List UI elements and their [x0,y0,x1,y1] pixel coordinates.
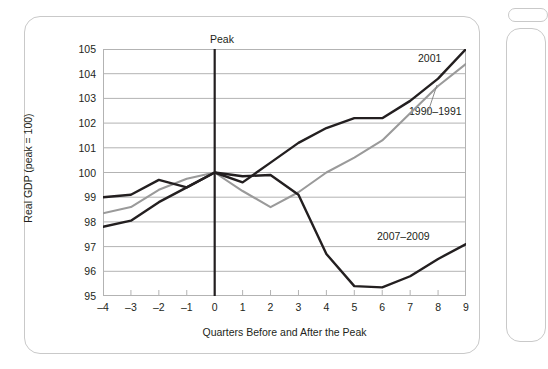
x-tick-minus1: –1 [172,302,202,313]
chart-svg [103,49,466,296]
y-tick-96: 96 [58,266,96,277]
peak-annotation-label: Peak [182,33,262,45]
x-tick-3: 3 [284,302,314,313]
y-tick-95: 95 [58,291,96,302]
x-tick-0: 0 [200,302,230,313]
x-tick-9: 9 [451,302,481,313]
y-tick-105: 105 [58,44,96,55]
adjacent-page-frame-top [508,8,548,22]
x-axis-title: Quarters Before and After the Peak [103,326,466,338]
leader-line-1990 [427,85,437,115]
y-tick-104: 104 [58,69,96,80]
x-tick-7: 7 [395,302,425,313]
x-tick-minus4: –4 [88,302,118,313]
x-tick-minus2: –2 [144,302,174,313]
y-tick-101: 101 [58,143,96,154]
x-tick-5: 5 [339,302,369,313]
series-line-1990-1991 [103,64,466,213]
x-tick-6: 6 [367,302,397,313]
y-axis-title: Real GDP (peak = 100) [22,93,34,243]
x-tick-8: 8 [423,302,453,313]
y-tick-99: 99 [58,192,96,203]
chart-plot-area [103,49,466,296]
y-tick-98: 98 [58,217,96,228]
x-tick-4: 4 [311,302,341,313]
x-tick-minus3: –3 [116,302,146,313]
y-tick-103: 103 [58,93,96,104]
y-tick-102: 102 [58,118,96,129]
y-tick-97: 97 [58,242,96,253]
x-tick-2: 2 [256,302,286,313]
label-leader-lines [427,85,437,115]
series-lines [103,49,466,287]
gridlines [103,74,466,272]
y-tick-100: 100 [58,168,96,179]
x-tick-1: 1 [228,302,258,313]
